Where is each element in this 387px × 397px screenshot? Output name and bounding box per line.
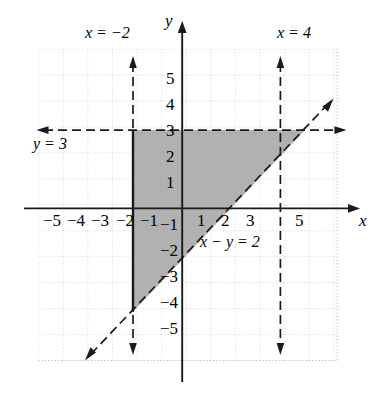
y-tick-label: 3 xyxy=(166,122,175,139)
x-tick-label: 3 xyxy=(246,212,255,229)
x-tick-label: −5 xyxy=(43,212,61,229)
x-tick-label: −3 xyxy=(91,212,109,229)
y-tick-label: 4 xyxy=(166,96,175,113)
x-tick-label: 1 xyxy=(197,212,206,229)
y-tick-label: −1 xyxy=(160,216,178,233)
x-axis-label: x xyxy=(359,212,367,229)
y-tick-label: 1 xyxy=(166,174,175,191)
y-tick-label: 2 xyxy=(166,148,175,165)
y-tick-label: −3 xyxy=(160,268,178,285)
x-tick-label: 5 xyxy=(295,212,304,229)
x-tick-label: 2 xyxy=(221,212,230,229)
label-line-x-minus-y-equals-2: x − y = 2 xyxy=(200,234,260,250)
y-tick-label: 5 xyxy=(166,70,175,87)
graph-canvas xyxy=(0,0,387,397)
y-tick-label: −4 xyxy=(160,294,178,311)
x-tick-label: −1 xyxy=(140,212,158,229)
coordinate-plane-figure: x y x = −2 x = 4 y = 3 x − y = 2 −5 −4 −… xyxy=(0,0,387,397)
x-tick-label: −4 xyxy=(67,212,85,229)
y-tick-label: −2 xyxy=(160,242,178,259)
label-line-y-equals-3: y = 3 xyxy=(33,136,67,152)
label-line-x-equals-neg2: x = −2 xyxy=(85,25,130,41)
label-line-x-equals-4: x = 4 xyxy=(277,25,311,41)
x-tick-label: −2 xyxy=(116,212,134,229)
y-tick-label: −5 xyxy=(160,320,178,337)
y-axis-label: y xyxy=(165,12,173,29)
